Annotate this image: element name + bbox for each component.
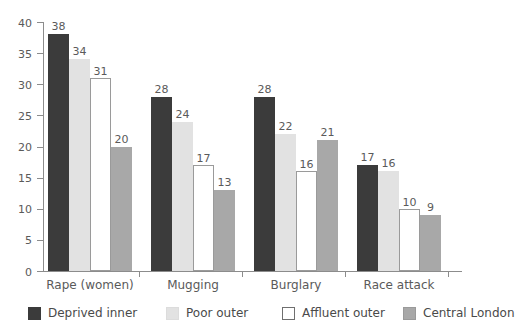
y-axis-tick-label: 20 xyxy=(18,142,32,153)
y-axis-tick-label: 10 xyxy=(18,204,32,215)
y-axis-tick-label: 40 xyxy=(18,17,32,28)
bar-value-label: 31 xyxy=(94,66,108,77)
bar: 13 xyxy=(214,190,235,271)
legend-color-swatch xyxy=(403,307,416,320)
bar: 22 xyxy=(275,134,296,271)
bar: 9 xyxy=(420,215,441,271)
bar-value-label: 16 xyxy=(300,159,314,170)
plot-area: 3834312028241713282216211716109 xyxy=(43,22,461,271)
y-axis-tick-label: 30 xyxy=(18,79,32,90)
bar-value-label: 28 xyxy=(155,84,169,95)
chart-legend: Deprived innerPoor outerAffluent outerCe… xyxy=(28,303,468,325)
bar: 16 xyxy=(378,171,399,271)
bar-value-label: 17 xyxy=(197,153,211,164)
legend-item: Affluent outer xyxy=(282,303,385,323)
bar: 16 xyxy=(296,171,317,271)
bar-value-label: 24 xyxy=(176,109,190,120)
bar: 10 xyxy=(399,209,420,271)
legend-item: Poor outer xyxy=(166,303,248,323)
y-axis-tick-label: 0 xyxy=(25,266,32,277)
legend-item-label: Affluent outer xyxy=(302,307,385,319)
bar: 24 xyxy=(172,122,193,271)
legend-item: Deprived inner xyxy=(28,303,137,323)
bar-value-label: 20 xyxy=(115,134,129,145)
bar: 31 xyxy=(90,78,111,271)
bar: 20 xyxy=(111,147,132,272)
legend-item-label: Deprived inner xyxy=(48,307,137,319)
bar: 38 xyxy=(48,34,69,271)
bar-value-label: 9 xyxy=(427,202,434,213)
bar-value-label: 34 xyxy=(73,46,87,57)
bar-value-label: 10 xyxy=(403,197,417,208)
x-axis-category-label: Burglary xyxy=(271,279,322,291)
bar-value-label: 17 xyxy=(361,152,375,163)
legend-color-swatch xyxy=(28,307,41,320)
bar: 34 xyxy=(69,59,90,271)
legend-item: Central London xyxy=(403,303,515,323)
x-axis-category-label: Rape (women) xyxy=(46,279,133,291)
y-axis-tick: 0 xyxy=(37,271,43,272)
legend-color-swatch xyxy=(282,307,295,320)
x-axis-separator-tick xyxy=(345,271,346,277)
y-axis-tick-label: 5 xyxy=(25,235,32,246)
bar: 28 xyxy=(254,97,275,271)
legend-color-swatch xyxy=(166,307,179,320)
bar: 21 xyxy=(317,140,338,271)
x-axis-separator-tick xyxy=(242,271,243,277)
y-axis-tick-label: 25 xyxy=(18,110,32,121)
bar-value-label: 38 xyxy=(52,21,66,32)
y-axis-tick-label: 35 xyxy=(18,48,32,59)
x-axis-separator-tick xyxy=(448,271,449,277)
bar-value-label: 22 xyxy=(279,121,293,132)
bar: 28 xyxy=(151,97,172,271)
bar: 17 xyxy=(193,165,214,271)
legend-item-label: Central London xyxy=(423,307,515,319)
x-axis-line xyxy=(43,271,462,272)
bar-value-label: 16 xyxy=(382,158,396,169)
x-axis-category-label: Mugging xyxy=(167,279,219,291)
bar-value-label: 21 xyxy=(321,127,335,138)
y-axis-tick-label: 15 xyxy=(18,173,32,184)
x-axis-category-label: Race attack xyxy=(364,279,435,291)
bar: 17 xyxy=(357,165,378,271)
x-axis-separator-tick xyxy=(139,271,140,277)
bar-value-label: 13 xyxy=(218,177,232,188)
legend-item-label: Poor outer xyxy=(186,307,248,319)
bar-value-label: 28 xyxy=(258,84,272,95)
